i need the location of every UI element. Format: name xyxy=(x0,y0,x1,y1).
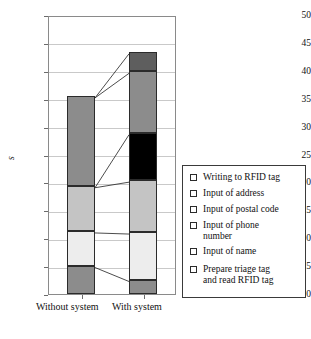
chart-legend: Writing to RFID tag Input of address Inp… xyxy=(182,165,306,298)
bar-segment xyxy=(129,232,157,279)
bar-segment xyxy=(129,71,157,132)
legend-item-writing-to-rfid-tag[interactable]: Writing to RFID tag xyxy=(190,172,280,183)
y-axis-label: s xyxy=(6,156,16,160)
x-tick-mark-0 xyxy=(82,295,83,299)
legend-swatch-icon xyxy=(190,248,197,255)
legend-swatch-icon xyxy=(190,190,197,197)
legend-label: Input of postal code xyxy=(203,204,279,215)
legend-label: Input of phone number xyxy=(203,220,259,242)
y-tick-label-40: 40 xyxy=(289,67,311,77)
legend-item-input-of-name[interactable]: Input of name xyxy=(190,246,256,257)
bar-segment xyxy=(129,133,157,180)
connector-line xyxy=(95,73,129,98)
bar-without-system xyxy=(67,15,95,294)
legend-label: Writing to RFID tag xyxy=(203,172,280,183)
bar-segment xyxy=(129,52,157,72)
y-tick-label-25: 25 xyxy=(289,151,311,161)
y-tick-label-30: 30 xyxy=(289,123,311,133)
legend-item-input-of-phone-number[interactable]: Input of phone number xyxy=(190,220,259,242)
legend-swatch-icon xyxy=(190,222,197,229)
plot-area xyxy=(48,16,176,295)
legend-label: Prepare triage tag and read RFID tag xyxy=(203,264,273,286)
y-tick-label-35: 35 xyxy=(289,95,311,105)
legend-label: Input of address xyxy=(203,188,264,199)
x-tick-label-without-system: Without system xyxy=(36,301,99,312)
legend-swatch-icon xyxy=(190,206,197,213)
bar-segment xyxy=(129,180,157,232)
legend-item-prepare-triage-tag[interactable]: Prepare triage tag and read RFID tag xyxy=(190,264,273,286)
legend-item-input-of-address[interactable]: Input of address xyxy=(190,188,264,199)
bar-segment xyxy=(67,266,95,294)
y-tick-mark-0 xyxy=(44,295,48,296)
y-tick-label-45: 45 xyxy=(289,39,311,49)
connector-line xyxy=(95,233,129,234)
legend-item-input-of-postal-code[interactable]: Input of postal code xyxy=(190,204,279,215)
connector-line xyxy=(95,54,129,98)
bar-segment xyxy=(67,186,95,231)
bar-with-system xyxy=(129,15,157,294)
legend-swatch-icon xyxy=(190,266,197,273)
bar-segment xyxy=(67,96,95,186)
stacked-bar-chart: s 50 45 40 35 30 25 20 15 10 5 0 xyxy=(0,0,311,339)
y-tick-label-50: 50 xyxy=(289,11,311,21)
connector-line xyxy=(95,268,129,282)
legend-swatch-icon xyxy=(190,174,197,181)
legend-label: Input of name xyxy=(203,246,256,257)
connector-line xyxy=(95,135,129,188)
bar-segment xyxy=(67,231,95,266)
x-tick-mark-1 xyxy=(144,295,145,299)
x-tick-label-with-system: With system xyxy=(112,301,162,312)
bar-segment xyxy=(129,280,157,295)
